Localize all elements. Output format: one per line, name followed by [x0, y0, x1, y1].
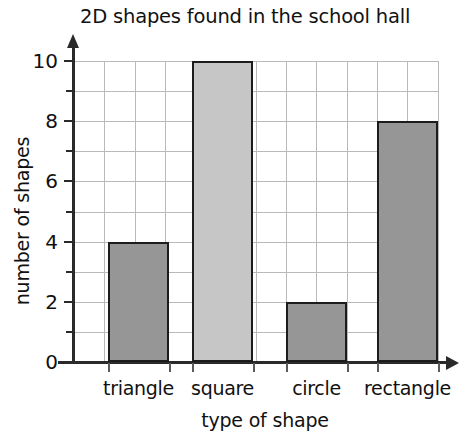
x-axis-label-circle: circle: [292, 377, 341, 399]
bar-triangle: [108, 242, 169, 362]
x-axis-tick: [169, 363, 171, 372]
y-axis-tick-minor: [66, 271, 75, 273]
y-axis-tick-minor: [66, 331, 75, 333]
x-axis-tick: [253, 363, 255, 372]
gridline-vertical: [104, 61, 105, 362]
y-axis-tick-label: 2: [22, 292, 58, 312]
y-axis-tick-minor: [66, 90, 75, 92]
y-axis-tick-label: 10: [22, 51, 58, 71]
x-axis-tick: [377, 363, 379, 372]
x-axis-label-triangle: triangle: [103, 377, 174, 399]
bar-chart: 2D shapes found in the school hall numbe…: [0, 0, 459, 443]
y-axis-tick-major: [64, 361, 75, 363]
x-axis-label-square: square: [191, 377, 254, 399]
x-axis-title: type of shape: [150, 409, 380, 431]
y-axis-tick-major: [64, 180, 75, 182]
chart-title: 2D shapes found in the school hall: [80, 4, 459, 30]
y-axis-tick-minor: [66, 150, 75, 152]
x-axis-arrow-icon: [446, 356, 459, 370]
y-axis-tick-minor: [66, 211, 75, 213]
x-axis-tick: [347, 363, 349, 372]
x-axis-tick: [108, 363, 110, 372]
bar-circle: [286, 302, 347, 362]
y-axis-tick-label: 6: [22, 171, 58, 191]
x-axis-label-rectangle: rectangle: [364, 377, 451, 399]
y-axis-tick-label: 4: [22, 232, 58, 252]
bar-rectangle: [377, 121, 438, 362]
y-axis-tick-label: 8: [22, 111, 58, 131]
y-axis-tick-label: 0: [22, 352, 58, 372]
y-axis-tick-major: [64, 241, 75, 243]
y-axis-line: [72, 46, 75, 363]
x-axis-tick: [286, 363, 288, 372]
y-axis-tick-major: [64, 120, 75, 122]
x-axis-tick: [192, 363, 194, 372]
y-axis-tick-major: [64, 301, 75, 303]
x-axis-tick: [438, 363, 440, 372]
gridline-vertical: [256, 61, 257, 362]
bar-square: [192, 61, 253, 362]
y-axis-tick-major: [64, 60, 75, 62]
y-axis-arrow-icon: [67, 34, 79, 48]
